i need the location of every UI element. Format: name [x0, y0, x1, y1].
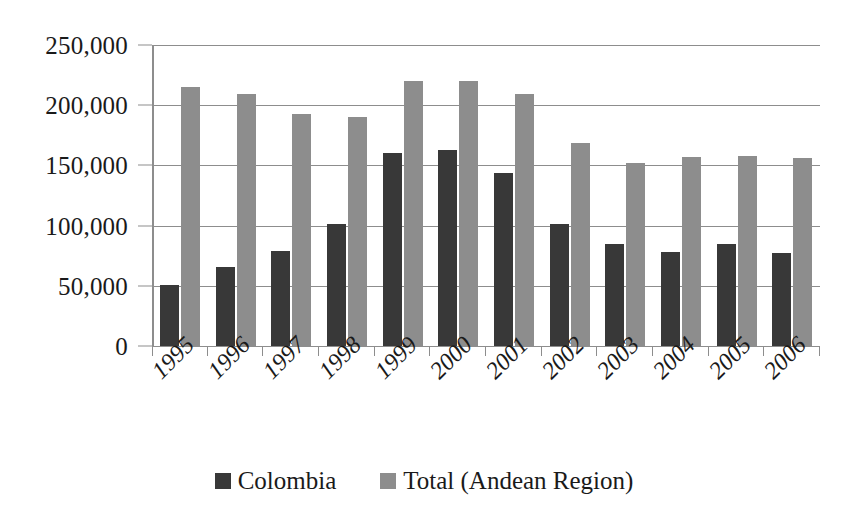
x-axis-label-cell: 1996 [208, 358, 264, 448]
bar-colombia-2001 [494, 173, 513, 346]
x-axis-label-cell: 2005 [709, 358, 765, 448]
x-axis-label-cell: 2000 [430, 358, 486, 448]
legend-swatch-icon [215, 473, 231, 489]
bar-colombia-1996 [216, 267, 235, 346]
x-axis-labels: 1995199619971998199920002001200220032004… [152, 358, 820, 448]
x-axis-label-cell: 2001 [486, 358, 542, 448]
bar-total-andean-region-1997 [292, 114, 311, 346]
bar-group [430, 45, 486, 346]
bar-total-andean-region-2000 [459, 81, 478, 346]
legend-item[interactable]: Colombia [215, 468, 337, 493]
bar-group [152, 45, 208, 346]
plot-area [152, 45, 820, 346]
y-axis-tick-mark [138, 105, 152, 106]
x-axis-label-cell: 1999 [375, 358, 431, 448]
bar-total-andean-region-2006 [793, 158, 812, 346]
bar-total-andean-region-1995 [181, 87, 200, 346]
x-axis-label-cell: 1998 [319, 358, 375, 448]
bar-group [709, 45, 765, 346]
y-axis-tick-label: 0 [115, 334, 128, 359]
bar-total-andean-region-1996 [237, 94, 256, 346]
legend-label: Colombia [238, 468, 337, 493]
y-axis-tick-label: 250,000 [45, 33, 128, 58]
bar-group [208, 45, 264, 346]
bar-total-andean-region-2001 [515, 94, 534, 346]
bar-colombia-2002 [550, 224, 569, 346]
bar-groups [152, 45, 820, 346]
y-axis-tick-label: 100,000 [45, 213, 128, 238]
y-axis-tick-mark [138, 346, 152, 347]
bar-colombia-2000 [438, 150, 457, 346]
y-axis-tick-mark [138, 45, 152, 46]
y-axis-tick-label: 50,000 [58, 273, 128, 298]
y-axis-tick-mark [138, 165, 152, 166]
legend-swatch-icon [380, 473, 396, 489]
bar-chart-figure: 050,000100,000150,000200,000250,000 1995… [0, 0, 848, 531]
bar-group [764, 45, 820, 346]
bar-total-andean-region-2004 [682, 157, 701, 346]
bar-colombia-2003 [605, 244, 624, 346]
x-axis-label-cell: 2006 [764, 358, 820, 448]
bar-group [319, 45, 375, 346]
bar-total-andean-region-2005 [738, 156, 757, 346]
bar-group [486, 45, 542, 346]
bar-group [375, 45, 431, 346]
bar-colombia-1999 [383, 153, 402, 346]
y-axis-tick-label: 200,000 [45, 93, 128, 118]
y-axis-tick-mark [138, 285, 152, 286]
bar-colombia-2006 [772, 253, 791, 346]
bar-colombia-2004 [661, 252, 680, 346]
bar-group [597, 45, 653, 346]
bar-colombia-1998 [327, 224, 346, 346]
y-axis: 050,000100,000150,000200,000250,000 [0, 0, 152, 400]
legend-label: Total (Andean Region) [403, 468, 633, 493]
x-axis-label-cell: 2003 [597, 358, 653, 448]
legend-item[interactable]: Total (Andean Region) [380, 468, 633, 493]
bar-total-andean-region-2003 [626, 163, 645, 346]
bar-group [542, 45, 598, 346]
bar-colombia-1997 [271, 251, 290, 346]
bar-group [263, 45, 319, 346]
y-axis-tick-label: 150,000 [45, 153, 128, 178]
bar-total-andean-region-1999 [404, 81, 423, 346]
bar-total-andean-region-1998 [348, 117, 367, 346]
x-axis-label-cell: 2004 [653, 358, 709, 448]
chart-legend: ColombiaTotal (Andean Region) [0, 468, 848, 493]
x-axis-label-cell: 1995 [152, 358, 208, 448]
bar-total-andean-region-2002 [571, 143, 590, 346]
bar-colombia-2005 [717, 244, 736, 346]
y-axis-tick-mark [138, 225, 152, 226]
bar-group [653, 45, 709, 346]
x-axis-label-cell: 2002 [542, 358, 598, 448]
x-axis-label-cell: 1997 [263, 358, 319, 448]
